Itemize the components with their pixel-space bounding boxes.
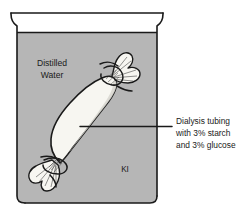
beaker-right-wall [157,13,163,196]
distilled-water-label-line2: Water [41,70,64,80]
tubing-callout-line2: with 3% starch [175,128,231,138]
tubing-callout-line3: and 3% glucose [176,140,236,150]
osmosis-diagram: Distilled Water KI Dialysis tubing with … [0,0,245,217]
diagram-canvas: Distilled Water KI Dialysis tubing with … [0,0,245,217]
distilled-water-label-line1: Distilled [37,58,67,68]
ki-label: KI [121,165,129,174]
tubing-callout-line1: Dialysis tubing [176,116,230,126]
